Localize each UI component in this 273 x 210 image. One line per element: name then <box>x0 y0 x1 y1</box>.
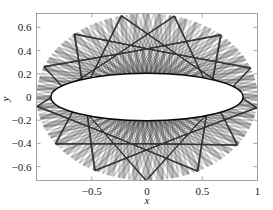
y-axis-label: y <box>0 96 11 102</box>
x-tick-label: 0.5 <box>195 185 209 197</box>
plot-area: −0.500.51 −0.6−0.4−0.200.20.40.6 x y <box>0 0 273 210</box>
x-tick-label: −0.5 <box>82 185 102 197</box>
y-tick-label: 0.6 <box>18 21 32 33</box>
inner-caustic-ellipse <box>51 73 243 121</box>
y-tick-label: −0.6 <box>12 161 32 173</box>
y-tick-label: −0.4 <box>12 137 32 149</box>
figure-canvas: −0.500.51 −0.6−0.4−0.200.20.40.6 x y <box>0 0 273 210</box>
y-tick-label: 0.4 <box>18 45 32 57</box>
x-tick-label: 1 <box>255 185 261 197</box>
y-tick-label: 0 <box>26 91 32 103</box>
x-axis-label: x <box>144 194 150 206</box>
y-tick-label: 0.2 <box>18 68 32 80</box>
y-tick-label: −0.2 <box>12 114 32 126</box>
caustic-ellipse <box>51 73 243 121</box>
